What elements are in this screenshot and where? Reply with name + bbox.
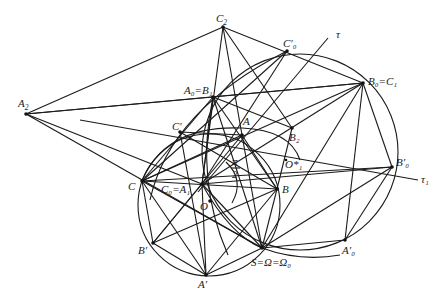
- label-B0C1: B₀=C₁: [368, 75, 397, 87]
- segment-B2-A0B1: [213, 97, 292, 128]
- point-Bp: [151, 241, 155, 245]
- point-A: [240, 133, 244, 137]
- point-C0p: [285, 49, 289, 53]
- segment-C2-B0C1: [223, 27, 363, 83]
- point-B0C1: [361, 81, 365, 85]
- geometry-diagram: C2 A2 A₀=B₁ B₀=C₁ C′₀ A B₂ C′ C C₀=A₁ B …: [0, 0, 446, 304]
- point-A0p: [343, 238, 347, 242]
- point-C: [140, 179, 144, 183]
- label-B: B: [282, 183, 289, 195]
- segment-B0C1-B0p: [363, 83, 392, 167]
- segment-C-Ap: [142, 181, 206, 275]
- label-A0prime: A′₀: [341, 244, 355, 256]
- label-B2: B₂: [289, 131, 300, 143]
- label-Bprime: B′: [138, 244, 148, 256]
- label-C0A1: C₀=A₁: [161, 183, 190, 195]
- point-B2: [290, 126, 294, 130]
- point-Ap: [204, 273, 208, 277]
- label-Cprime: C′: [172, 120, 182, 132]
- label-A0B1: A₀=B₁: [183, 84, 213, 96]
- angle-numerator: π: [232, 155, 238, 167]
- label-B0prime: B′₀: [396, 156, 409, 168]
- label-tau: τ: [336, 28, 341, 40]
- arc-through-s: [202, 184, 340, 257]
- point-B: [275, 187, 279, 191]
- angle-denominator: 2: [232, 168, 238, 180]
- label-A: A: [242, 115, 250, 127]
- label-Aprime: A′: [197, 278, 208, 290]
- label-O: O: [200, 200, 208, 212]
- point-O: [208, 199, 212, 203]
- label-tau1: τ₁: [421, 173, 429, 185]
- label-O1star: O*₁: [285, 158, 302, 170]
- construction-lines: [26, 27, 418, 275]
- segment-C2-A: [223, 27, 242, 135]
- point-C0A1: [200, 182, 204, 186]
- label-S: S=Ω=Ω₀: [251, 256, 291, 268]
- label-C0prime: C′₀: [283, 37, 297, 49]
- segment-A2-C2: [26, 27, 223, 114]
- segment-Bp-Ap: [153, 243, 206, 275]
- point-S: [260, 246, 264, 250]
- point-A2: [24, 112, 28, 116]
- segment-C0A1-S: [202, 184, 262, 248]
- label-A2: A2: [17, 97, 29, 112]
- segment-S-B0p: [262, 167, 392, 248]
- label-C2: C2: [216, 12, 227, 27]
- point-B0p: [390, 165, 394, 169]
- segment-B0C1-S: [262, 83, 363, 248]
- small-circle: [138, 134, 280, 276]
- label-C: C: [128, 180, 136, 192]
